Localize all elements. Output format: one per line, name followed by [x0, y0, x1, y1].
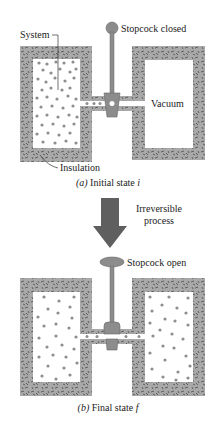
- process-label-line1: Irreversible: [124, 203, 194, 215]
- label-insulation: Insulation: [60, 162, 100, 174]
- caption-panel-a: (a) Initial state i: [0, 177, 216, 189]
- panel-b-final-state: [20, 257, 205, 396]
- stopcock-handle: [100, 257, 124, 267]
- caption-b-text: Final state: [92, 402, 133, 413]
- caption-panel-b: (b) Final state f: [0, 402, 216, 414]
- caption-a-prefix: (a): [76, 177, 88, 188]
- process-label: Irreversible process: [124, 203, 194, 227]
- caption-a-text: Initial state: [90, 177, 135, 188]
- process-label-line2: process: [124, 215, 194, 227]
- down-arrow-icon: [93, 198, 127, 248]
- label-system: System: [20, 29, 49, 41]
- stopcock-stem-final: [110, 266, 114, 323]
- label-stopcock-open: Stopcock open: [127, 257, 186, 269]
- stopcock-stem: [110, 32, 114, 94]
- irreversible-process-arrow: [93, 198, 127, 248]
- panel-a-initial-state: [20, 22, 205, 168]
- stopcock-valve-top: [104, 322, 120, 334]
- connecting-tube-channel-final: [80, 334, 145, 339]
- caption-b-prefix: (b): [78, 402, 90, 413]
- label-vacuum: Vacuum: [151, 98, 184, 110]
- caption-a-var: i: [137, 177, 140, 188]
- stopcock-closed: [104, 22, 120, 117]
- caption-b-var: f: [136, 402, 139, 413]
- stopcock-valve-bottom: [106, 339, 118, 350]
- left-chamber-system: [33, 59, 80, 148]
- label-stopcock-closed: Stopcock closed: [121, 23, 186, 35]
- stopcock-valve-bore: [110, 101, 115, 106]
